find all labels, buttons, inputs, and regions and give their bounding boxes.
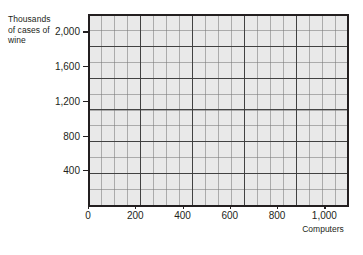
x-tick-label: 1,000 bbox=[294, 210, 354, 221]
y-tick-label: 1,600 bbox=[20, 61, 80, 72]
y-tick-label: 800 bbox=[20, 130, 80, 141]
x-axis-title: Computers bbox=[288, 224, 358, 234]
x-tick-mark bbox=[324, 205, 325, 209]
axis-spine-top bbox=[88, 14, 349, 16]
y-tick-mark bbox=[83, 66, 88, 67]
chart-figure: Thousands of cases of wine 4008001,2001,… bbox=[0, 0, 363, 255]
x-tick-mark bbox=[277, 205, 278, 209]
axis-spine-bottom bbox=[88, 205, 349, 207]
x-tick-mark bbox=[88, 205, 89, 209]
y-tick-label: 1,200 bbox=[20, 95, 80, 106]
x-tick-mark bbox=[183, 205, 184, 209]
x-tick-mark bbox=[135, 205, 136, 209]
axis-spine-left bbox=[88, 14, 90, 207]
y-tick-mark bbox=[83, 136, 88, 137]
y-axis-title-line-1: Thousands bbox=[8, 14, 80, 25]
x-tick-mark bbox=[230, 205, 231, 209]
y-tick-label: 2,000 bbox=[20, 26, 80, 37]
axis-spine-right bbox=[347, 14, 349, 207]
y-tick-mark bbox=[83, 101, 88, 102]
plot-area bbox=[88, 14, 348, 205]
grid-major-lines bbox=[88, 14, 348, 205]
y-tick-mark bbox=[83, 31, 88, 32]
y-tick-label: 400 bbox=[20, 165, 80, 176]
y-tick-mark bbox=[83, 170, 88, 171]
